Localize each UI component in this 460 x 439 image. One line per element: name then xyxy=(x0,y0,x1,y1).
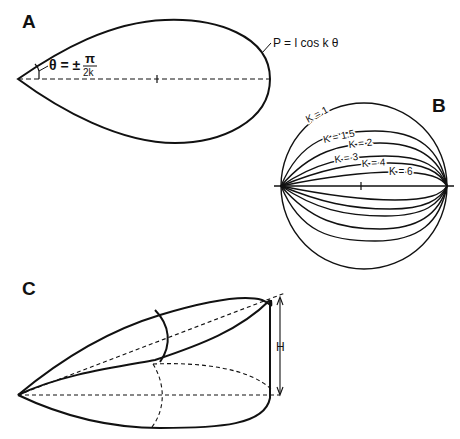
label-k4: K = 4 xyxy=(361,156,386,169)
label-k3: K = 3 xyxy=(334,151,359,165)
equation-label: P = l cos k θ xyxy=(273,36,339,50)
petal-outline xyxy=(18,20,270,143)
panel-c: C H xyxy=(18,278,285,428)
panel-b-label: B xyxy=(432,95,446,116)
label-k1: K = 1 xyxy=(304,104,330,125)
height-label: H xyxy=(276,340,285,354)
label-k6: K = 6 xyxy=(389,166,413,177)
panel-a: A l θ = ± π 2k P = l cos k θ xyxy=(18,11,339,143)
angle-numerator: π xyxy=(85,51,95,66)
panel-b: B K = 1 K = 1.5 K = 2 K = 3 K = 4 K = 6 xyxy=(274,95,454,269)
angle-leader xyxy=(39,66,48,71)
equation-leader xyxy=(262,43,271,53)
diagram-canvas: A l θ = ± π 2k P = l cos k θ B xyxy=(0,0,460,439)
panel-a-label: A xyxy=(22,11,36,32)
angle-denominator: 2k xyxy=(83,67,95,78)
panel-c-label: C xyxy=(22,278,36,299)
label-k2: K = 2 xyxy=(348,137,373,150)
angle-formula: θ = ± xyxy=(49,57,81,73)
curve-k6 xyxy=(281,172,447,186)
solid-outline xyxy=(18,298,271,428)
